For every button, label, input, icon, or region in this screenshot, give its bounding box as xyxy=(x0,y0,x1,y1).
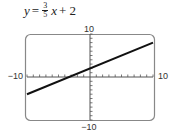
y-max-label: 10 xyxy=(84,24,94,34)
y-min-label: −10 xyxy=(81,122,96,132)
graph-plot: 10 −10 −10 10 xyxy=(0,0,172,134)
x-max-label: 10 xyxy=(158,71,168,81)
x-min-label: −10 xyxy=(8,71,23,81)
